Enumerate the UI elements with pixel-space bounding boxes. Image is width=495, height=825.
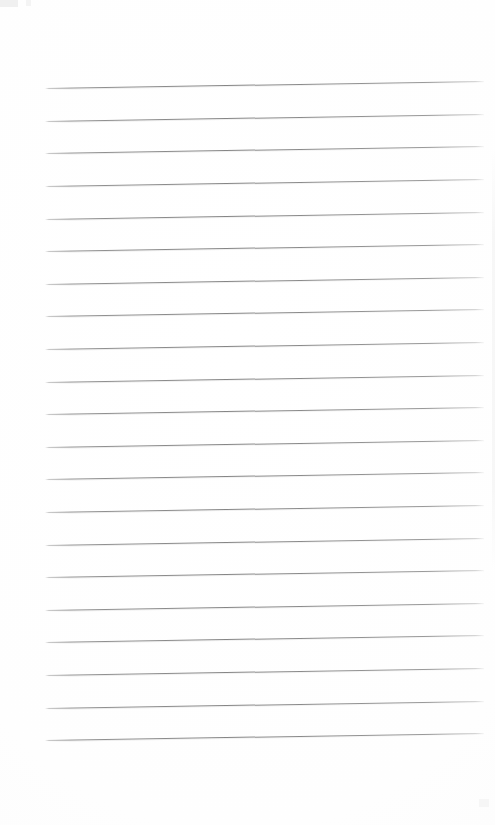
rule-line: [45, 570, 484, 578]
rule-line: [45, 81, 484, 89]
rule-line: [45, 505, 484, 513]
rule-line: [45, 635, 484, 643]
scanned-page: [0, 0, 495, 825]
rule-line: [45, 342, 484, 350]
rule-line: [45, 603, 484, 611]
rule-line: [45, 146, 484, 154]
scan-artifact-corner-speck: [26, 0, 31, 6]
rule-line: [45, 212, 484, 220]
scan-artifact-corner-block: [0, 0, 18, 7]
rule-line: [45, 277, 484, 285]
ruled-lines-group: [0, 0, 495, 825]
rule-line: [45, 407, 484, 415]
rule-line: [45, 375, 484, 383]
scan-artifact-bottom-right: [479, 799, 489, 807]
rule-line: [45, 701, 484, 709]
rule-line: [45, 472, 484, 480]
rule-line: [45, 668, 484, 676]
rule-line: [45, 733, 484, 741]
rule-line: [45, 440, 484, 448]
rule-line: [45, 179, 484, 187]
rule-line: [45, 538, 484, 546]
rule-line: [45, 244, 484, 252]
rule-line: [45, 309, 484, 317]
rule-line: [45, 114, 484, 122]
